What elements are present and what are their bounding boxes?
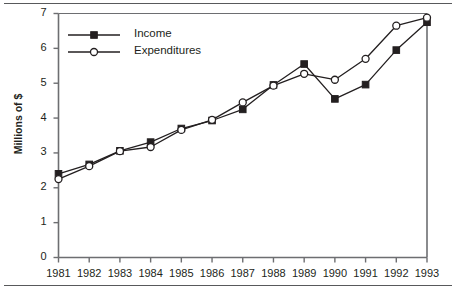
- y-tick-label: 1: [31, 215, 47, 227]
- legend-marker-income: [91, 32, 98, 39]
- axes-group: [54, 14, 428, 263]
- data-point-expenditures: [147, 144, 154, 151]
- data-point-expenditures: [116, 148, 123, 155]
- data-point-expenditures: [55, 176, 62, 183]
- data-point-expenditures: [239, 99, 246, 106]
- line-chart-plot: [0, 0, 456, 295]
- legend-label-expenditures: Expenditures: [134, 44, 201, 56]
- legend-marker-expenditures: [91, 49, 98, 56]
- data-point-income: [332, 96, 339, 103]
- data-point-income: [301, 61, 308, 68]
- data-point-expenditures: [424, 14, 431, 21]
- data-point-expenditures: [178, 126, 185, 133]
- y-tick-label: 7: [31, 6, 47, 18]
- x-tick-label: 1993: [407, 267, 447, 279]
- y-tick-label: 4: [31, 111, 47, 123]
- data-point-income: [362, 81, 369, 88]
- data-point-expenditures: [331, 76, 338, 83]
- legend-marks-group: [68, 32, 120, 56]
- data-point-expenditures: [209, 116, 216, 123]
- data-point-expenditures: [270, 82, 277, 89]
- y-tick-label: 5: [31, 76, 47, 88]
- data-point-income: [239, 106, 246, 113]
- y-tick-label: 2: [31, 180, 47, 192]
- data-point-expenditures: [301, 70, 308, 77]
- data-point-expenditures: [393, 22, 400, 29]
- series-line-income: [59, 22, 428, 174]
- y-tick-label: 6: [31, 41, 47, 53]
- legend-label-income: Income: [134, 27, 172, 39]
- data-point-expenditures: [86, 163, 93, 170]
- chart-figure: Millions of $ 01234567 19811982198319841…: [0, 0, 456, 295]
- data-series-group: [55, 14, 431, 182]
- y-tick-label: 3: [31, 145, 47, 157]
- data-point-expenditures: [362, 55, 369, 62]
- y-tick-label: 0: [31, 250, 47, 262]
- data-point-income: [393, 47, 400, 54]
